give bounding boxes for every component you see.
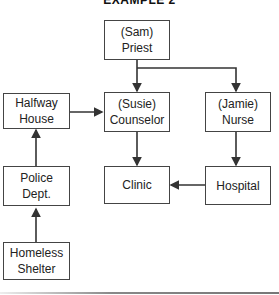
node-hospital: Hospital — [205, 166, 271, 205]
node-label: Homeless — [10, 245, 63, 261]
node-label: Police — [20, 170, 53, 186]
node-label: House — [19, 111, 54, 127]
node-label: Halfway — [15, 95, 58, 111]
node-label: Nurse — [222, 112, 254, 128]
node-label: (Susie) — [118, 96, 156, 112]
node-label: Hospital — [216, 178, 259, 194]
node-counselor: (Susie) Counselor — [104, 92, 170, 132]
node-clinic: Clinic — [104, 166, 170, 204]
edge-priest-nurse — [137, 68, 236, 91]
node-label: (Sam) — [121, 24, 154, 40]
bottom-rule — [0, 292, 279, 294]
node-label: (Jamie) — [218, 96, 258, 112]
node-label: Clinic — [122, 177, 151, 193]
node-label: Dept. — [22, 186, 51, 202]
node-priest: (Sam) Priest — [104, 20, 170, 60]
node-nurse: (Jamie) Nurse — [205, 92, 271, 132]
node-label: Shelter — [17, 261, 55, 277]
node-homeless-shelter: Homeless Shelter — [3, 242, 70, 280]
node-halfway-house: Halfway House — [3, 93, 70, 129]
node-police-dept: Police Dept. — [3, 166, 70, 206]
node-label: Counselor — [110, 112, 165, 128]
node-label: Priest — [122, 40, 153, 56]
